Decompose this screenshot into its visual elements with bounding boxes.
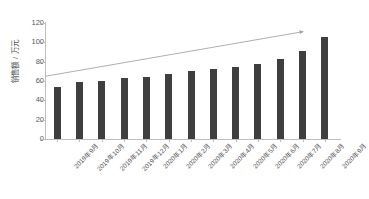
x-tick-mark: [303, 139, 304, 142]
y-tick-mark: [41, 62, 45, 63]
y-tick-mark: [41, 100, 45, 101]
x-tick-mark: [191, 139, 192, 142]
y-tick-mark: [41, 23, 45, 24]
x-tick-mark: [325, 139, 326, 142]
x-tick-mark: [146, 139, 147, 142]
x-tick-mark: [213, 139, 214, 142]
x-tick-mark: [79, 139, 80, 142]
y-tick-mark: [41, 42, 45, 43]
x-tick-mark: [280, 139, 281, 142]
y-tick-mark: [41, 120, 45, 121]
x-tick-mark: [169, 139, 170, 142]
x-tick-mark: [236, 139, 237, 142]
y-tick-mark: [41, 81, 45, 82]
x-tick-mark: [102, 139, 103, 142]
x-tick-mark: [124, 139, 125, 142]
x-tick-mark: [258, 139, 259, 142]
x-tick-mark: [57, 139, 58, 142]
y-tick-mark: [41, 139, 45, 140]
